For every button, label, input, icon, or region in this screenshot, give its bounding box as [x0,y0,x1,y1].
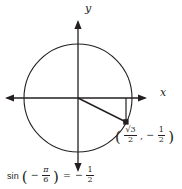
identity-angle-denominator: 6 [42,176,49,185]
identity-angle-minus-sign: − [31,169,39,180]
sine-identity-label: sin ( − π 6 ) = − 1 2 [7,166,94,185]
coord-x-fraction: √3 2 [124,126,137,144]
coord-x-denominator: 2 [124,136,136,145]
identity-angle-fraction: π 6 [42,166,50,184]
identity-value-fraction: 1 2 [86,166,94,184]
x-axis-label: x [160,87,166,98]
coord-open-paren: ( [115,128,121,146]
identity-equals-sign: = [62,170,72,181]
y-axis-label: y [85,3,91,14]
coord-y-minus-sign: − [146,129,154,140]
coord-close-paren: ) [168,128,174,146]
coord-y-denominator: 2 [158,136,165,145]
terminal-point-coordinate-label: ( √3 2 , − 1 2 ) [115,126,174,145]
x-axis-left-arrowhead [5,94,14,101]
identity-function-name: sin [7,171,19,181]
identity-close-paren: ) [53,168,59,186]
identity-value-denominator: 2 [86,176,93,185]
terminal-ray [78,98,126,122]
y-axis-up-arrowhead [74,20,81,29]
identity-value-minus-sign: − [75,169,83,180]
x-axis-right-arrowhead [138,94,147,101]
unit-circle-canvas [0,0,182,189]
coord-y-fraction: 1 2 [157,126,165,144]
identity-open-paren: ( [22,168,28,186]
unit-circle-figure: y x ( √3 2 , − 1 2 ) sin ( − π 6 ) = − 1… [0,0,182,189]
terminal-point-marker [123,119,128,124]
coord-comma: , [140,130,143,141]
